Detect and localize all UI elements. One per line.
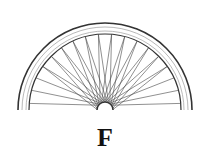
wheel-rim [18,23,192,110]
wheel-spokes [29,34,180,109]
figure-label: F [0,123,210,153]
wheel-hub [97,102,113,110]
